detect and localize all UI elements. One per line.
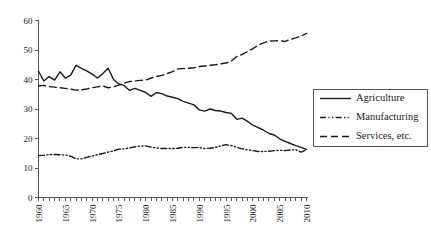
y-tick-label-10: 10 xyxy=(24,163,34,173)
chart-container: 0102030405060 19601965197019751980198519… xyxy=(0,0,431,240)
legend-label-agriculture: Agriculture xyxy=(356,92,405,103)
chart-legend: AgricultureManufacturingServices, etc. xyxy=(313,89,427,146)
series-line-manufacturing xyxy=(39,145,307,159)
x-tick-label-2010: 2010 xyxy=(302,204,312,223)
y-tick-label-50: 50 xyxy=(24,45,34,55)
y-tick-label-60: 60 xyxy=(24,16,34,26)
x-axis-ticks xyxy=(39,198,307,202)
y-tick-label-30: 30 xyxy=(24,104,34,114)
line-chart: 0102030405060 19601965197019751980198519… xyxy=(0,0,431,240)
y-tick-label-0: 0 xyxy=(28,193,33,203)
series-line-services-etc xyxy=(39,33,307,90)
x-tick-label-1960: 1960 xyxy=(34,204,44,223)
x-axis: 1960196519701975198019851990199520002005… xyxy=(34,198,312,223)
x-tick-label-2005: 2005 xyxy=(275,204,285,223)
x-tick-label-1970: 1970 xyxy=(88,204,98,223)
legend-label-services-etc: Services, etc. xyxy=(356,130,412,141)
x-axis-tick-labels: 1960196519701975198019851990199520002005… xyxy=(34,204,312,223)
y-axis: 0102030405060 xyxy=(24,16,39,203)
y-tick-label-40: 40 xyxy=(24,75,34,85)
x-tick-label-1980: 1980 xyxy=(141,204,151,223)
x-tick-label-1985: 1985 xyxy=(168,204,178,223)
y-axis-ticks xyxy=(35,21,39,198)
data-series-group xyxy=(39,33,307,158)
y-tick-label-20: 20 xyxy=(24,134,34,144)
x-tick-label-1975: 1975 xyxy=(114,204,124,223)
series-line-agriculture xyxy=(39,65,307,149)
x-tick-label-1990: 1990 xyxy=(195,204,205,223)
x-tick-label-1995: 1995 xyxy=(222,204,232,223)
legend-label-manufacturing: Manufacturing xyxy=(356,111,419,122)
x-tick-label-1965: 1965 xyxy=(61,204,71,223)
y-axis-tick-labels: 0102030405060 xyxy=(24,16,34,203)
x-tick-label-2000: 2000 xyxy=(248,204,258,223)
